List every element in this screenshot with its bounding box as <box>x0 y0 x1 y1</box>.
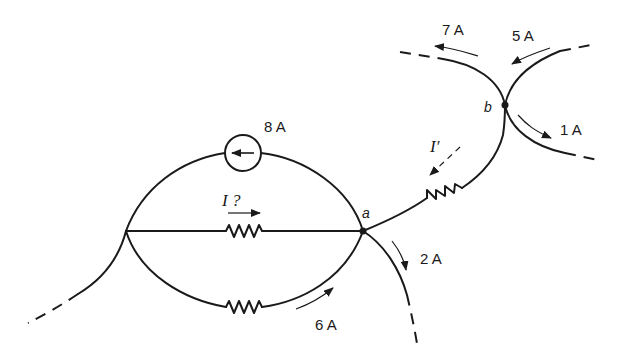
left-lead-wire <box>28 231 126 323</box>
b-top-right-current-arrow-icon <box>512 48 550 64</box>
node-b-label: b <box>484 99 492 115</box>
circuit-diagram: 8 A I ? 6 A a 2 A I′ b 7 A <box>0 0 620 362</box>
unknown-current-label: I ? <box>221 191 241 210</box>
node-b-dot <box>502 102 509 109</box>
bottom-current-arrow-icon <box>296 288 333 309</box>
middle-branch-wire <box>126 225 363 237</box>
b-top-left-current-label: 7 A <box>442 21 464 38</box>
node-a-label: a <box>362 205 370 221</box>
source-current-label: 8 A <box>264 118 286 135</box>
a-to-b-wire <box>363 105 505 231</box>
bottom-current-label: 6 A <box>315 316 337 333</box>
bottom-branch-wire <box>126 231 363 313</box>
current-source-8a <box>225 135 261 171</box>
prime-current-label: I′ <box>429 137 440 156</box>
a-output-current-label: 2 A <box>420 250 442 267</box>
b-top-right-current-label: 5 A <box>512 27 534 44</box>
b-bottom-right-current-label: 1 A <box>560 121 582 138</box>
a-output-lead-wire <box>363 231 418 350</box>
b-top-left-current-arrow-icon <box>435 46 478 56</box>
